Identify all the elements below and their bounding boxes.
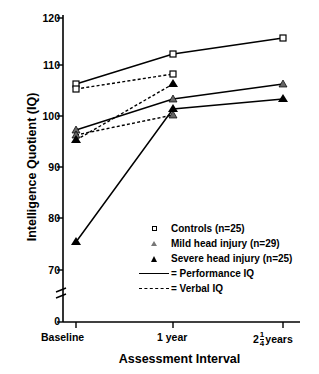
legend-item-performance: = Performance IQ: [139, 266, 292, 281]
legend-label-controls: Controls (n=25): [169, 223, 245, 234]
chart-legend: Controls (n=25) Mild head injury (n=29) …: [139, 221, 292, 296]
legend-item-controls: Controls (n=25): [139, 221, 292, 236]
open-square-icon: [139, 226, 169, 231]
x-axis-ticks: [76, 322, 283, 328]
series-line: [76, 38, 283, 84]
dashed-line-icon: [139, 288, 169, 289]
legend-item-mild: Mild head injury (n=29): [139, 236, 292, 251]
data-point-marker: [278, 94, 288, 102]
legend-label-mild: Mild head injury (n=29): [169, 238, 280, 249]
solid-line-icon: [139, 273, 169, 274]
data-point-marker: [71, 135, 81, 143]
series-mild-performance: [72, 80, 287, 133]
legend-label-severe: Severe head injury (n=25): [169, 253, 292, 264]
series-line: [76, 84, 173, 140]
data-point-marker: [170, 71, 176, 77]
data-point-marker: [73, 86, 79, 92]
legend-item-severe: Severe head injury (n=25): [139, 251, 292, 266]
data-point-marker: [280, 35, 286, 41]
open-triangle-icon: [139, 241, 169, 246]
chart-figure: Intelligence Quotient (IQ) 120 110 100 9…: [0, 0, 319, 374]
filled-triangle-icon: [139, 256, 169, 262]
series-controls-performance: [73, 35, 286, 87]
y-axis-ticks: [57, 18, 63, 322]
legend-label-verbal: = Verbal IQ: [169, 283, 223, 294]
data-point-marker: [168, 79, 178, 87]
data-point-marker: [279, 80, 287, 87]
axis-break-marks: [56, 288, 66, 298]
plot-area: [0, 0, 319, 374]
legend-item-verbal: = Verbal IQ: [139, 281, 292, 296]
series-line: [76, 84, 283, 130]
series-controls-verbal: [73, 71, 176, 92]
legend-label-performance: = Performance IQ: [169, 268, 254, 279]
series-line: [76, 74, 173, 89]
data-point-marker: [170, 51, 176, 57]
series-severe-verbal: [71, 79, 178, 143]
